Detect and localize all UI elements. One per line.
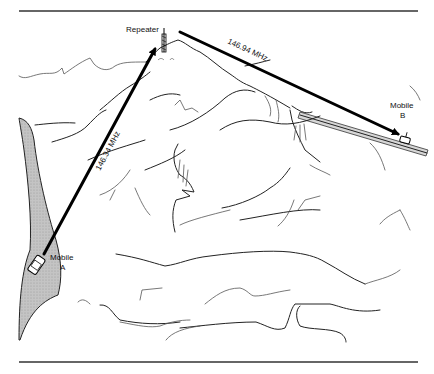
mobile-b-car-icon — [399, 131, 412, 144]
mobile-a-label-line1: Mobile — [50, 253, 74, 262]
repeater-diagram: Repeater 146.34 MHz 146.94 MHz Mobile A … — [0, 0, 434, 374]
mobile-a-label-line2: A — [60, 263, 66, 272]
repeater-tower-icon — [158, 28, 174, 60]
freq-label-b: 146.94 MHz — [226, 37, 269, 63]
link-a-to-repeater — [44, 49, 155, 254]
mobile-b-label-line2: B — [400, 111, 405, 120]
road-left — [19, 118, 61, 340]
link-repeater-to-b — [180, 32, 398, 134]
repeater-label: Repeater — [126, 25, 159, 34]
mobile-b-label-line1: Mobile — [390, 101, 414, 110]
